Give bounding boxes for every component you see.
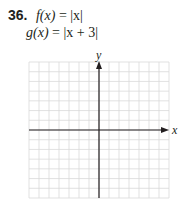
coordinate-grid: x y [0,0,182,218]
x-axis-label: x [171,123,178,137]
x-axis-arrow-icon [161,127,169,133]
y-axis-label: y [95,48,102,62]
